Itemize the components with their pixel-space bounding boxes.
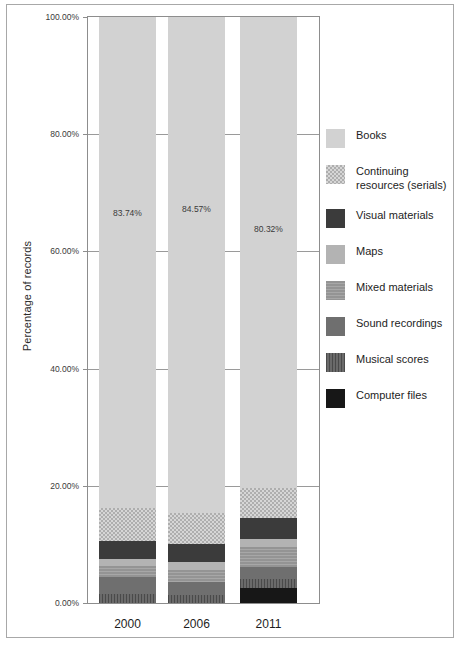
legend-item[interactable]: Maps bbox=[326, 244, 454, 264]
legend-item[interactable]: Books bbox=[326, 128, 454, 148]
bar-segment[interactable] bbox=[99, 17, 156, 508]
y-axis-tick bbox=[83, 369, 88, 370]
bar-segment[interactable] bbox=[168, 562, 225, 570]
legend-item-label: Visual materials bbox=[356, 208, 433, 223]
bar-segment[interactable] bbox=[240, 518, 297, 539]
bar-segment[interactable] bbox=[240, 579, 297, 588]
legend-swatch-icon bbox=[326, 165, 345, 184]
bar-segment[interactable] bbox=[99, 566, 156, 578]
legend-item-label: Books bbox=[356, 128, 387, 143]
legend-swatch-icon bbox=[326, 389, 345, 408]
bar-segment[interactable] bbox=[168, 17, 225, 513]
y-axis-tick bbox=[83, 251, 88, 252]
bar-segment[interactable] bbox=[99, 577, 156, 594]
legend-item[interactable]: Sound recordings bbox=[326, 316, 454, 336]
legend-swatch-icon bbox=[326, 353, 345, 372]
bar-segment[interactable] bbox=[240, 567, 297, 579]
bar-segment[interactable] bbox=[168, 513, 225, 544]
y-axis-tick-label: 80.00% bbox=[50, 129, 79, 139]
x-axis-tick-label: 2006 bbox=[157, 617, 237, 631]
bar-segment[interactable] bbox=[99, 594, 156, 603]
legend-item[interactable]: Musical scores bbox=[326, 352, 454, 372]
legend-swatch-icon bbox=[326, 209, 345, 228]
y-axis-tick bbox=[83, 17, 88, 18]
y-axis-tick-label: 60.00% bbox=[50, 246, 79, 256]
legend-item-label: Computer files bbox=[356, 388, 427, 403]
y-axis-tick-label: 40.00% bbox=[50, 364, 79, 374]
y-axis-tick-label: 100.00% bbox=[45, 12, 79, 22]
stacked-bar[interactable] bbox=[99, 17, 156, 603]
y-axis-tick bbox=[83, 603, 88, 604]
y-axis-tick bbox=[83, 486, 88, 487]
x-axis-tick-label: 2000 bbox=[88, 617, 168, 631]
bar-segment[interactable] bbox=[99, 559, 156, 566]
legend-item[interactable]: Continuing resources (serials) bbox=[326, 164, 454, 192]
legend-item[interactable]: Mixed materials bbox=[326, 280, 454, 300]
x-axis-tick-label: 2011 bbox=[229, 617, 309, 631]
legend-item-label: Sound recordings bbox=[356, 316, 442, 331]
bar-segment[interactable] bbox=[99, 541, 156, 559]
bar-segment[interactable] bbox=[240, 588, 297, 603]
bar-segment[interactable] bbox=[240, 547, 297, 567]
y-axis-tick-label: 20.00% bbox=[50, 481, 79, 491]
stacked-bar[interactable] bbox=[168, 17, 225, 603]
bar-segment[interactable] bbox=[168, 595, 225, 603]
legend-swatch-icon bbox=[326, 129, 345, 148]
legend-item[interactable]: Computer files bbox=[326, 388, 454, 408]
legend-item[interactable]: Visual materials bbox=[326, 208, 454, 228]
bar-segment[interactable] bbox=[240, 488, 297, 518]
bar-segment[interactable] bbox=[168, 544, 225, 563]
chart-legend: BooksContinuing resources (serials)Visua… bbox=[326, 128, 454, 424]
legend-swatch-icon bbox=[326, 317, 345, 336]
bar-segment[interactable] bbox=[99, 508, 156, 541]
legend-swatch-icon bbox=[326, 281, 345, 300]
legend-item-label: Maps bbox=[356, 244, 383, 259]
bar-segment[interactable] bbox=[240, 17, 297, 488]
chart-figure: Percentage of records 0.00%20.00%40.00%6… bbox=[0, 0, 460, 646]
y-axis-tick-label: 0.00% bbox=[55, 598, 79, 608]
stacked-bar[interactable] bbox=[240, 17, 297, 603]
legend-item-label: Musical scores bbox=[356, 352, 429, 367]
y-axis-tick bbox=[83, 134, 88, 135]
bar-segment[interactable] bbox=[240, 539, 297, 548]
plot-area: 0.00%20.00%40.00%60.00%80.00%100.00%83.7… bbox=[87, 16, 320, 604]
bar-segment[interactable] bbox=[168, 570, 225, 582]
y-axis-title: Percentage of records bbox=[21, 206, 33, 386]
bar-segment[interactable] bbox=[168, 582, 225, 594]
legend-swatch-icon bbox=[326, 245, 345, 264]
legend-item-label: Mixed materials bbox=[356, 280, 433, 295]
legend-item-label: Continuing resources (serials) bbox=[356, 164, 454, 192]
